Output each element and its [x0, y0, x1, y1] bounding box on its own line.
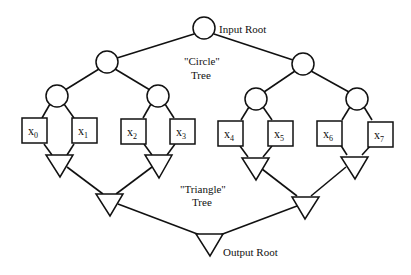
triangle-tree-label-line2: Tree	[192, 196, 212, 208]
circle-tree-label-line2: Tree	[191, 69, 211, 81]
input-root-node	[193, 17, 215, 39]
output-root-node	[196, 234, 223, 256]
circle-node	[292, 53, 314, 75]
triangle-node	[46, 155, 73, 177]
triangle-tree-label-line1: "Triangle"	[180, 183, 226, 195]
triangle-node	[145, 155, 172, 178]
circle-node	[46, 85, 68, 107]
output-root-label: Output Root	[223, 246, 278, 258]
tree-diagram: x0 x1 x2 x3 x4 x5 x6 x7 Input Root "Circ…	[0, 0, 411, 275]
circle-node	[96, 51, 118, 73]
triangle-node	[242, 158, 269, 180]
circle-node	[346, 88, 368, 110]
circle-node	[147, 85, 169, 107]
input-root-label: Input Root	[219, 23, 266, 35]
circle-node	[245, 88, 267, 110]
circle-tree-label-line1: "Circle"	[184, 55, 220, 67]
triangle-node	[292, 197, 319, 219]
